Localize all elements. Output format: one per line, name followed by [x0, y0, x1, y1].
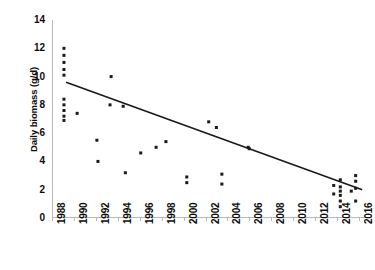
x-tick-label: 1990: [78, 203, 89, 224]
x-tick-label: 1996: [144, 203, 155, 224]
x-tick-mark: [359, 218, 360, 221]
data-point: [339, 185, 342, 188]
y-tick-label: 14: [19, 15, 45, 25]
data-point: [354, 174, 357, 177]
x-tick-label: 1992: [100, 203, 111, 224]
data-point: [96, 160, 99, 163]
data-point: [164, 140, 167, 143]
x-axis-tick-labels: 1988199019921994199619982000200220042006…: [52, 218, 370, 270]
x-tick-mark: [249, 218, 250, 221]
y-tick-label: 8: [19, 100, 45, 110]
x-tick-label: 1994: [122, 203, 133, 224]
data-point: [124, 171, 127, 174]
data-point: [62, 61, 65, 64]
data-point: [62, 119, 65, 122]
data-point: [62, 74, 65, 77]
data-point: [207, 120, 210, 123]
data-point: [109, 103, 112, 106]
x-tick-label: 2014: [341, 203, 352, 224]
y-tick-label: 4: [19, 156, 45, 166]
data-point: [155, 146, 158, 149]
data-point: [62, 47, 65, 50]
x-tick-label: 2010: [297, 203, 308, 224]
y-tick-label: 0: [19, 213, 45, 223]
y-axis-tick-labels: 02468101214: [17, 0, 45, 270]
trend-line-group: [66, 82, 362, 189]
x-tick-mark: [74, 218, 75, 221]
data-point: [332, 184, 335, 187]
data-point: [220, 183, 223, 186]
data-point: [185, 181, 188, 184]
x-tick-mark: [206, 218, 207, 221]
x-tick-label: 1988: [56, 203, 67, 224]
x-tick-label: 2008: [275, 203, 286, 224]
data-point: [332, 192, 335, 195]
trend-line: [66, 82, 362, 189]
data-point: [62, 54, 65, 57]
data-point: [62, 103, 65, 106]
x-tick-label: 2002: [210, 203, 221, 224]
x-tick-mark: [337, 218, 338, 221]
x-tick-mark: [162, 218, 163, 221]
data-point: [122, 105, 125, 108]
data-point: [62, 109, 65, 112]
x-tick-mark: [96, 218, 97, 221]
data-point: [62, 98, 65, 101]
x-tick-mark: [140, 218, 141, 221]
data-point: [339, 178, 342, 181]
data-point: [76, 112, 79, 115]
x-tick-mark: [227, 218, 228, 221]
x-tick-mark: [184, 218, 185, 221]
data-point: [354, 200, 357, 203]
data-point: [62, 115, 65, 118]
data-point: [215, 126, 218, 129]
x-tick-label: 2012: [319, 203, 330, 224]
x-tick-label: 2000: [188, 203, 199, 224]
x-tick-mark: [293, 218, 294, 221]
plot-svg: [53, 20, 371, 218]
x-tick-label: 2004: [231, 203, 242, 224]
x-tick-label: 2016: [363, 203, 374, 224]
data-point: [354, 180, 357, 183]
y-tick-label: 12: [19, 43, 45, 53]
x-tick-mark: [271, 218, 272, 221]
data-point: [62, 68, 65, 71]
data-point: [95, 139, 98, 142]
x-tick-label: 2006: [253, 203, 264, 224]
scatter-chart: Daily biomass (g/d) 02468101214 19881990…: [0, 0, 375, 270]
data-point: [139, 151, 142, 154]
x-tick-label: 1998: [166, 203, 177, 224]
data-point: [350, 190, 353, 193]
data-point: [248, 147, 251, 150]
data-point: [354, 187, 357, 190]
data-point: [110, 75, 113, 78]
data-point: [220, 173, 223, 176]
data-point: [339, 190, 342, 193]
x-tick-mark: [118, 218, 119, 221]
data-point: [339, 194, 342, 197]
data-point: [185, 175, 188, 178]
y-tick-label: 10: [19, 72, 45, 82]
y-tick-label: 2: [19, 185, 45, 195]
x-tick-mark: [315, 218, 316, 221]
plot-area: [52, 20, 370, 218]
y-tick-label: 6: [19, 128, 45, 138]
x-tick-mark: [52, 218, 53, 221]
data-points-group: [62, 47, 357, 208]
